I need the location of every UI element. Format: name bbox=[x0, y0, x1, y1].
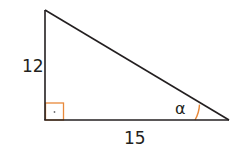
angle-arc-alpha bbox=[195, 105, 200, 120]
triangle-diagram: 12 15 α bbox=[0, 0, 240, 159]
label-vertical-side: 12 bbox=[22, 56, 44, 76]
label-horizontal-side: 15 bbox=[124, 128, 146, 148]
label-angle-alpha: α bbox=[175, 99, 186, 118]
right-angle-dot bbox=[54, 111, 56, 113]
side-hypotenuse bbox=[45, 10, 229, 120]
